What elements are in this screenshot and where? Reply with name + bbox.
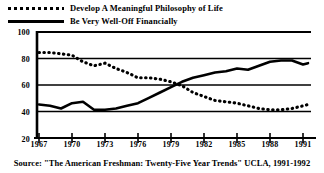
y-tick-40: 40 <box>22 108 30 117</box>
x-tick-1970: 1970 <box>64 140 81 148</box>
source-caption: Source: "The American Freshman: Twenty-F… <box>0 158 324 168</box>
legend-label-financial: Be Very Well-Off Financially <box>70 16 178 27</box>
x-tick-1976: 1976 <box>130 140 147 148</box>
solid-line-swatch-icon <box>8 16 64 27</box>
legend-item-philosophy: Develop A Meaningful Philosophy of Life <box>8 2 318 14</box>
y-tick-80: 80 <box>22 55 30 64</box>
x-tick-1982: 1982 <box>196 140 213 148</box>
y-tick-100: 100 <box>17 28 30 37</box>
x-axis-tick-labels: 1967 1970 1973 1976 1979 1982 1985 1988 … <box>31 140 312 148</box>
x-tick-1979: 1979 <box>163 140 180 148</box>
x-tick-1991: 1991 <box>295 140 312 148</box>
y-tick-20: 20 <box>22 135 30 144</box>
x-tick-1967: 1967 <box>31 140 48 148</box>
chart-figure: Develop A Meaningful Philosophy of Life … <box>0 0 324 173</box>
y-tick-60: 60 <box>22 81 30 90</box>
line-chart-svg: 100 80 60 40 20 <box>0 26 324 148</box>
x-tick-1973: 1973 <box>97 140 114 148</box>
plot-area: 100 80 60 40 20 <box>0 26 324 148</box>
legend-label-philosophy: Develop A Meaningful Philosophy of Life <box>70 3 223 14</box>
chart-legend: Develop A Meaningful Philosophy of Life … <box>8 2 318 28</box>
x-tick-1988: 1988 <box>262 140 279 148</box>
y-axis-tick-labels: 100 80 60 40 20 <box>17 28 30 144</box>
x-tick-1985: 1985 <box>229 140 246 148</box>
dotted-line-swatch-icon <box>8 3 64 14</box>
